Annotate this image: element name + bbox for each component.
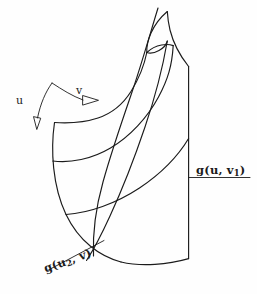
surface-diagram-svg [0, 0, 257, 294]
outer-bottom-boundary-curve [121, 259, 189, 265]
u-coordinate-curve-2 [87, 41, 168, 261]
u-parameter-label: u [16, 94, 23, 107]
u-direction-arrow-head [34, 117, 41, 130]
tongue-fold-curve [147, 45, 173, 53]
surface-diagram-figure: u v g(u, v1) g(u2, v) [0, 0, 257, 294]
g-u-v1-label: g(u, v1) [196, 163, 246, 178]
outer-left-boundary-curve [53, 123, 121, 263]
g-u-v1-label-suffix: ) [240, 163, 246, 177]
u-coordinate-curve-1 [93, 8, 158, 256]
outer-upper-right-boundary-curve [167, 12, 188, 67]
u-direction-arrow-shaft [38, 83, 53, 118]
v-direction-arrow-head [83, 96, 99, 105]
v-coordinate-curve-1 [53, 46, 173, 162]
g-u-v1-label-prefix: g(u, v [196, 163, 234, 177]
v-parameter-label: v [76, 84, 82, 97]
tongue-fold-inner-curve [147, 41, 168, 53]
